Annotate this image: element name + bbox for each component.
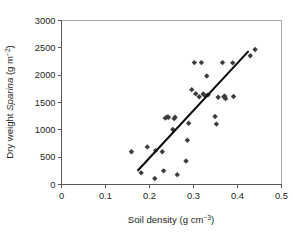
y-tick-label: 1500 — [35, 98, 56, 108]
y-tick-label: 1000 — [35, 125, 56, 135]
x-tick-label: 0.4 — [231, 191, 244, 201]
y-tick-label: 2500 — [35, 43, 56, 53]
y-tick-label: 2000 — [35, 70, 56, 80]
y-axis-title: Dry weight Sparina (g m−2) — [4, 45, 16, 159]
x-axis-title: Soil density (g cm−3) — [128, 214, 214, 226]
x-tick-label: 0.5 — [275, 191, 288, 201]
y-tick-label: 3000 — [35, 16, 56, 26]
x-tick-label: 0 — [59, 191, 64, 201]
y-tick-label: 500 — [40, 152, 56, 162]
y-tick-label: 0 — [50, 180, 55, 190]
scatter-plot: 050010001500200025003000 00.10.20.30.40.… — [0, 0, 293, 235]
x-tick-label: 0.3 — [187, 191, 200, 201]
x-tick-label: 0.2 — [143, 191, 156, 201]
x-tick-label: 0.1 — [99, 191, 112, 201]
chart-figure: 050010001500200025003000 00.10.20.30.40.… — [0, 0, 293, 235]
